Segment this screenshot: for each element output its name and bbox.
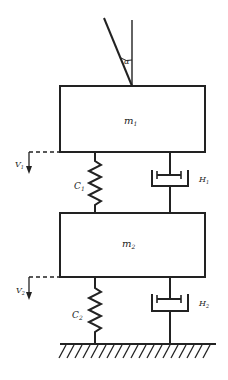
v1-label: V1 [15, 160, 24, 170]
damper-h1-label: H1 [198, 175, 209, 185]
spring-c2-label: C2 [72, 310, 83, 321]
ground-hatching [59, 345, 210, 358]
mass-1-label: m1 [124, 115, 137, 127]
mass-2-label: m2 [122, 238, 135, 250]
angle-label: α [124, 57, 130, 66]
damper-h2 [152, 277, 188, 344]
v2-label: V2 [16, 286, 25, 296]
damper-h1 [152, 152, 188, 213]
spring-c1 [89, 152, 101, 213]
spring-c1-label: C1 [74, 181, 85, 192]
v2-arrow-head-icon [26, 292, 32, 300]
spring-damper-diagram: α m1 m2 C1 C2 H1 H2 V1 V2 [0, 0, 228, 380]
v1-arrow-head-icon [26, 166, 32, 174]
inclined-line [104, 18, 132, 86]
spring-c2 [89, 277, 101, 344]
damper-h2-label: H2 [198, 299, 209, 309]
